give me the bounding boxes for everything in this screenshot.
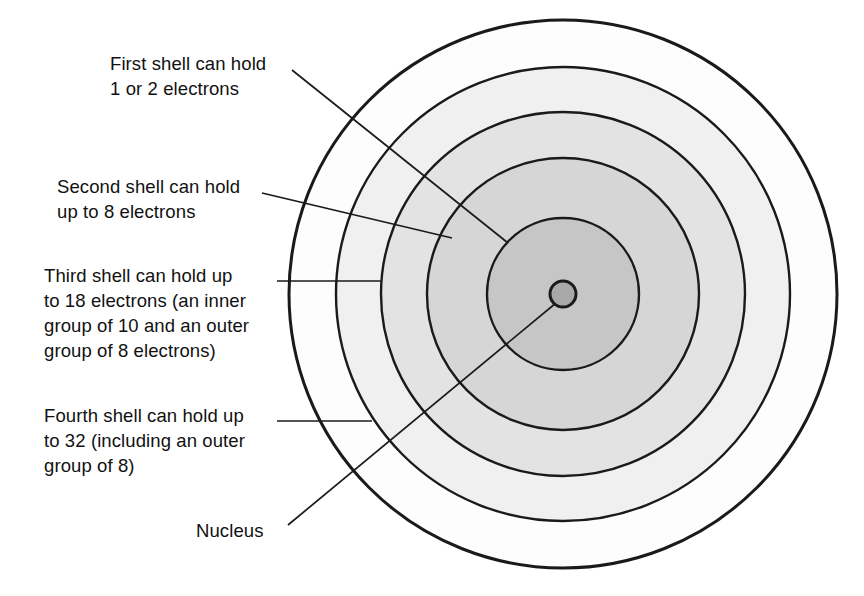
label-second-shell: Second shell can hold up to 8 electrons bbox=[57, 174, 287, 224]
label-third-shell: Third shell can hold up to 18 electrons … bbox=[44, 263, 299, 363]
label-first-shell: First shell can hold 1 or 2 electrons bbox=[110, 51, 325, 101]
label-fourth-shell: Fourth shell can hold up to 32 (includin… bbox=[44, 403, 294, 478]
nucleus-circle bbox=[550, 281, 576, 307]
diagram-page: First shell can hold 1 or 2 electrons Se… bbox=[0, 0, 864, 596]
label-nucleus: Nucleus bbox=[196, 518, 316, 543]
